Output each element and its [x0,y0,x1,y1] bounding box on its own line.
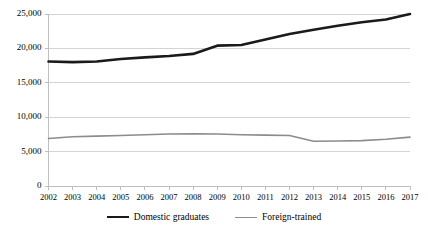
y-tick-label: 25,000 [17,9,42,18]
x-tick-label: 2002 [37,193,61,202]
x-tick-label: 2011 [253,193,277,202]
x-tick-label: 2014 [326,193,350,202]
legend-swatch-icon [107,216,129,218]
x-tick-label: 2003 [61,193,85,202]
x-tick-label: 2010 [229,193,253,202]
y-tick-label: 5,000 [21,147,41,156]
gridlines [49,14,411,152]
legend-item[interactable]: Domestic graduates [107,212,209,222]
y-tick-label: 15,000 [17,78,42,87]
series-lines [49,14,411,141]
legend-label: Domestic graduates [134,212,209,222]
series-line [49,134,411,142]
y-tick-label: 20,000 [17,43,42,52]
x-tick-label: 2008 [181,193,205,202]
legend-swatch-icon [235,217,257,218]
y-tick-label: 0 [37,181,42,190]
legend-item[interactable]: Foreign-trained [235,212,321,222]
x-tick-marks [49,186,411,190]
x-tick-label: 2016 [374,193,398,202]
x-tick-label: 2006 [133,193,157,202]
x-tick-label: 2013 [302,193,326,202]
x-tick-label: 2017 [398,193,422,202]
x-tick-label: 2015 [350,193,374,202]
line-chart: 05,00010,00015,00020,00025,000 200220032… [0,0,428,236]
y-tick-marks [45,14,49,186]
chart-legend: Domestic graduatesForeign-trained [0,212,428,222]
x-tick-label: 2005 [109,193,133,202]
x-tick-label: 2007 [157,193,181,202]
series-line [49,14,411,62]
y-tick-label: 10,000 [17,112,42,121]
x-tick-label: 2009 [205,193,229,202]
axis-lines [49,14,411,186]
x-tick-label: 2012 [278,193,302,202]
x-tick-label: 2004 [85,193,109,202]
legend-label: Foreign-trained [262,212,321,222]
